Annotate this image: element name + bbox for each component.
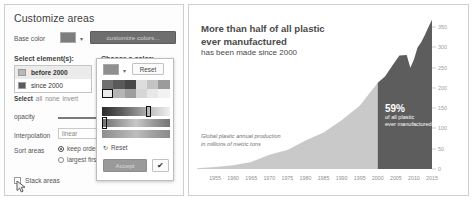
chevron-down-icon[interactable]: ▾ <box>123 68 126 74</box>
chart-annotation: 59% of all plastic ever manufactured <box>385 103 437 128</box>
palette-swatch[interactable] <box>158 80 169 89</box>
x-axis: 1955196019651970197519801985199019952000… <box>197 175 432 185</box>
y-tick-label: 50 <box>432 146 460 152</box>
select-actions-label: Select <box>14 95 33 102</box>
opacity-label: opacity <box>14 113 35 120</box>
y-tick-label: 250 <box>432 65 460 71</box>
x-tick-label: 1975 <box>281 175 293 181</box>
palette-swatch[interactable] <box>136 89 147 98</box>
y-axis: 050100150200250300350 <box>432 17 460 169</box>
x-tick-label: 1985 <box>318 175 330 181</box>
ramp-marker[interactable] <box>102 117 107 129</box>
color-ramp-mid[interactable] <box>102 119 170 127</box>
element-list[interactable]: before 2000 since 2000 <box>14 65 92 93</box>
area-chart <box>197 17 432 169</box>
list-item[interactable]: before 2000 <box>15 66 91 79</box>
app-root: Customize areas Base color ▾ customize c… <box>0 0 473 201</box>
palette-row <box>102 80 170 89</box>
color-ramp-dark[interactable] <box>102 107 170 116</box>
x-tick-label: 2005 <box>390 175 402 181</box>
radio-icon[interactable] <box>58 146 64 152</box>
base-color-row: Base color ▾ customize colors... <box>14 31 179 46</box>
palette-swatch-selected[interactable] <box>102 89 113 98</box>
select-actions: Selectallnoneinvert <box>14 95 78 102</box>
picker-current-color-swatch[interactable] <box>103 64 119 75</box>
reset-icon: ↻ <box>103 144 108 151</box>
select-invert-link[interactable]: invert <box>62 95 78 102</box>
x-tick-label: 2000 <box>372 175 384 181</box>
x-tick-label: 2010 <box>408 175 420 181</box>
x-tick-label: 1955 <box>209 175 221 181</box>
picker-reset-button[interactable]: Reset <box>132 63 164 75</box>
palette-reset-label: Reset <box>111 144 127 151</box>
chart-card: More than half of all plastic ever manuf… <box>188 4 469 196</box>
base-color-swatch[interactable] <box>60 32 76 43</box>
base-color-label: Base color <box>14 35 45 42</box>
x-tick-label: 1995 <box>354 175 366 181</box>
sort-option-keep-order[interactable]: keep order <box>58 145 98 152</box>
x-tick-label: 2015 <box>426 175 438 181</box>
color-ramp-light[interactable] <box>102 130 170 138</box>
palette-swatch[interactable] <box>102 80 113 89</box>
list-item-label: before 2000 <box>31 69 68 76</box>
palette-swatch[interactable] <box>125 80 136 89</box>
palette-reset-row[interactable]: ↻Reset <box>103 144 127 151</box>
sort-option-label: keep order <box>67 145 98 152</box>
color-picker-popover[interactable]: ▾ Reset ↻Reset <box>96 58 174 181</box>
y-tick-label: 0 <box>432 166 460 172</box>
sort-option-label: largest first <box>67 156 98 163</box>
palette-swatch[interactable] <box>125 89 136 98</box>
annotation-line2: ever manufactured <box>385 121 437 128</box>
select-all-link[interactable]: all <box>36 95 42 102</box>
sort-areas-label: Sort areas <box>14 147 44 154</box>
x-tick-label: 1960 <box>227 175 239 181</box>
element-color-swatch <box>18 69 26 76</box>
select-elements-label: Select element(s): <box>14 55 74 62</box>
chart-plot-area <box>197 17 432 169</box>
list-item[interactable]: since 2000 <box>15 79 91 92</box>
radio-icon[interactable] <box>58 157 64 163</box>
palette-swatch[interactable] <box>147 80 158 89</box>
list-item-label: since 2000 <box>31 82 63 89</box>
stack-areas-label: Stack areas <box>25 177 60 184</box>
palette-swatch[interactable] <box>158 89 169 98</box>
palette-swatch[interactable] <box>136 80 147 89</box>
element-color-swatch <box>18 82 26 89</box>
y-tick-label: 200 <box>432 85 460 91</box>
opacity-slider[interactable] <box>58 117 100 119</box>
palette-swatch[interactable] <box>113 80 124 89</box>
confirm-check-button[interactable]: ✔ <box>152 159 169 172</box>
palette-swatch[interactable] <box>113 89 124 98</box>
ramp-marker[interactable] <box>146 106 151 117</box>
x-tick-label: 1990 <box>336 175 348 181</box>
chevron-down-icon[interactable]: ▾ <box>80 36 83 42</box>
y-tick-label: 350 <box>432 24 460 30</box>
select-none-link[interactable]: none <box>45 95 59 102</box>
annotation-value: 59% <box>385 103 437 114</box>
panel-title: Customize areas <box>14 12 94 24</box>
annotation-line1: of all plastic <box>385 114 437 121</box>
accept-button[interactable]: Accept <box>103 159 147 172</box>
mouse-cursor-icon <box>16 180 28 193</box>
x-tick-label: 1980 <box>300 175 312 181</box>
x-tick-label: 1965 <box>245 175 257 181</box>
sort-option-largest-first[interactable]: largest first <box>58 156 98 163</box>
interpolation-label: Interpolation <box>14 132 50 139</box>
x-tick-label: 1970 <box>263 175 275 181</box>
palette-row <box>102 89 170 98</box>
palette-swatch[interactable] <box>147 89 158 98</box>
palette-grid[interactable] <box>102 80 170 98</box>
y-tick-label: 300 <box>432 44 460 50</box>
customize-colors-button[interactable]: customize colors... <box>90 31 176 44</box>
